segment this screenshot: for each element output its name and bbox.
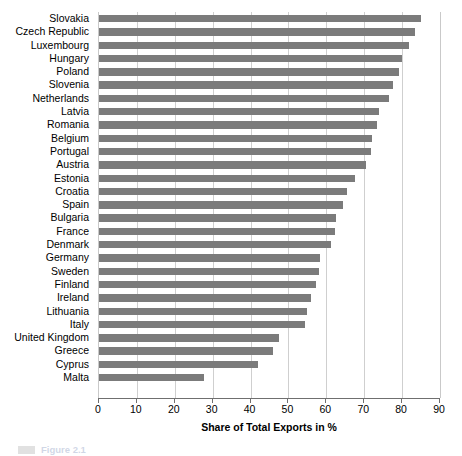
bar <box>99 268 319 275</box>
value-axis-tick-label: 70 <box>357 403 369 415</box>
category-label: Lithuania <box>0 305 94 318</box>
category-axis: SlovakiaCzech RepublicLuxembourgHungaryP… <box>0 12 94 384</box>
category-label: Czech Republic <box>0 25 94 38</box>
bar <box>99 374 204 381</box>
value-axis-tick-label: 50 <box>282 403 294 415</box>
bar-row <box>99 118 440 131</box>
bar-row <box>99 145 440 158</box>
bar-row <box>99 358 440 371</box>
value-axis-tick-label: 0 <box>95 403 101 415</box>
bar <box>99 201 343 208</box>
bar <box>99 81 393 88</box>
bar <box>99 281 316 288</box>
category-label: Portugal <box>0 145 94 158</box>
bar-row <box>99 25 440 38</box>
category-label: Luxembourg <box>0 39 94 52</box>
bar-row <box>99 158 440 171</box>
bar-row <box>99 305 440 318</box>
bar <box>99 361 258 368</box>
bar-chart: SlovakiaCzech RepublicLuxembourgHungaryP… <box>0 0 462 456</box>
category-label: Hungary <box>0 52 94 65</box>
bar-row <box>99 251 440 264</box>
bar <box>99 121 377 128</box>
legend-swatch-icon <box>18 446 35 454</box>
bar <box>99 347 273 354</box>
category-label: Germany <box>0 251 94 264</box>
category-label: Greece <box>0 344 94 357</box>
bar-row <box>99 331 440 344</box>
value-axis-tick-label: 20 <box>168 403 180 415</box>
bar <box>99 135 372 142</box>
value-axis-tick-label: 80 <box>395 403 407 415</box>
bar-row <box>99 278 440 291</box>
bar <box>99 161 366 168</box>
bar <box>99 228 335 235</box>
category-label: Netherlands <box>0 92 94 105</box>
category-label: Italy <box>0 318 94 331</box>
value-axis-tick-label: 90 <box>433 403 445 415</box>
bar-row <box>99 291 440 304</box>
category-label: Denmark <box>0 238 94 251</box>
category-label: Poland <box>0 65 94 78</box>
category-label: Croatia <box>0 185 94 198</box>
category-label: Slovenia <box>0 78 94 91</box>
bar-row <box>99 92 440 105</box>
category-label: Estonia <box>0 172 94 185</box>
bar <box>99 95 389 102</box>
value-axis-tick-label: 60 <box>319 403 331 415</box>
bar <box>99 55 402 62</box>
bar-row <box>99 265 440 278</box>
category-label: Bulgaria <box>0 211 94 224</box>
legend-label: Figure 2.1 <box>41 444 86 455</box>
bar <box>99 188 347 195</box>
value-axis-ticks: 0102030405060708090 <box>98 399 440 413</box>
bar-row <box>99 198 440 211</box>
bar <box>99 241 331 248</box>
category-label: Latvia <box>0 105 94 118</box>
category-label: France <box>0 225 94 238</box>
bar <box>99 308 307 315</box>
category-label: Ireland <box>0 291 94 304</box>
category-label: Romania <box>0 118 94 131</box>
chart-legend: Figure 2.1 <box>18 444 86 455</box>
value-axis-title: Share of Total Exports in % <box>98 421 440 433</box>
bar-row <box>99 225 440 238</box>
bar-series <box>99 12 440 398</box>
bar <box>99 108 379 115</box>
bar-row <box>99 39 440 52</box>
bar <box>99 214 336 221</box>
plot-area <box>98 12 441 398</box>
bar <box>99 254 320 261</box>
bar-row <box>99 211 440 224</box>
category-label: Austria <box>0 158 94 171</box>
bar-row <box>99 344 440 357</box>
category-label: United Kingdom <box>0 331 94 344</box>
bar-row <box>99 172 440 185</box>
bar <box>99 148 371 155</box>
bar-row <box>99 78 440 91</box>
category-label: Finland <box>0 278 94 291</box>
bar-row <box>99 238 440 251</box>
category-label: Sweden <box>0 265 94 278</box>
bar-row <box>99 52 440 65</box>
bar <box>99 334 279 341</box>
bar <box>99 321 305 328</box>
category-label: Spain <box>0 198 94 211</box>
bar-row <box>99 105 440 118</box>
bar-row <box>99 371 440 384</box>
category-label: Belgium <box>0 132 94 145</box>
value-axis-tick-label: 40 <box>244 403 256 415</box>
bar-row <box>99 12 440 25</box>
value-axis-tick-label: 10 <box>130 403 142 415</box>
value-axis-tick-label: 30 <box>206 403 218 415</box>
bar <box>99 42 409 49</box>
bar-row <box>99 318 440 331</box>
bar-row <box>99 132 440 145</box>
bar <box>99 28 415 35</box>
bar <box>99 15 421 22</box>
bar <box>99 294 311 301</box>
bar <box>99 68 399 75</box>
bar-row <box>99 65 440 78</box>
category-label: Slovakia <box>0 12 94 25</box>
category-label: Malta <box>0 371 94 384</box>
